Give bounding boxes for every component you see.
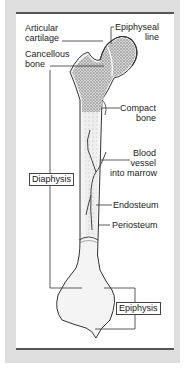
label-line: bone (115, 113, 156, 123)
label-line: Articular (25, 23, 59, 33)
label-line: Cancellous (25, 49, 70, 59)
label-line: into marrow (110, 168, 156, 178)
label-epiphysis-box: Epiphysis (116, 302, 161, 315)
label-compact-bone: Compact bone (115, 103, 156, 123)
label-line: line (115, 32, 159, 42)
label-articular-cartilage: Articular cartilage (25, 23, 59, 43)
label-line: vessel (110, 158, 156, 168)
label-line: bone (25, 59, 70, 69)
label-periosteum: Periosteum (112, 220, 158, 230)
label-blood-vessel: Blood vessel into marrow (110, 148, 156, 178)
label-diaphysis-box: Diaphysis (29, 173, 74, 186)
label-line: Epiphyseal (115, 22, 159, 32)
label-line: cartilage (25, 33, 59, 43)
label-epiphyseal-line: Epiphyseal line (115, 22, 159, 42)
label-line: Blood (110, 148, 156, 158)
label-endosteum: Endosteum (113, 200, 159, 210)
label-line: Compact (115, 103, 156, 113)
label-cancellous-bone: Cancellous bone (25, 49, 70, 69)
